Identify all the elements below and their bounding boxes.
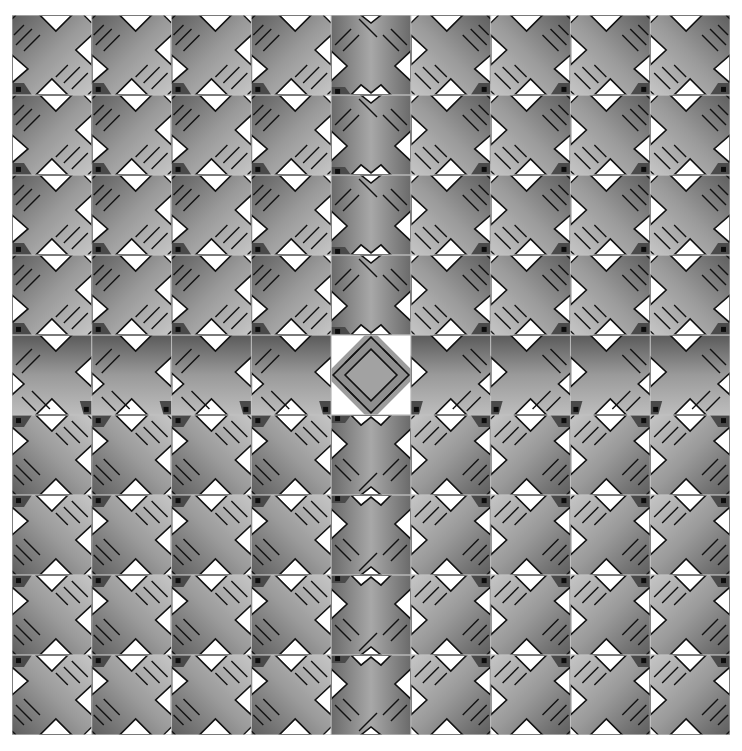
pattern-tile-middle-row: [172, 335, 252, 415]
pattern-tile-bottom-right: [650, 495, 730, 575]
pattern-tile-middle-column: [331, 495, 411, 575]
pattern-tile-bottom-right: [491, 575, 571, 655]
pattern-tile-bottom-left: [92, 415, 172, 495]
pattern-tile-middle-row: [491, 335, 571, 415]
pattern-tile-middle-column: [331, 415, 411, 495]
tile-pattern-artwork: [0, 0, 742, 751]
pattern-tile-middle-row: [12, 335, 92, 415]
pattern-tile-top-left: [12, 15, 92, 95]
pattern-tile-bottom-right: [411, 575, 491, 655]
pattern-tile-middle-row: [650, 335, 730, 415]
pattern-tile-top-left: [92, 15, 172, 95]
pattern-tile-bottom-left: [251, 495, 331, 575]
pattern-tile-middle-row: [251, 335, 331, 415]
pattern-tile-top-left: [172, 15, 252, 95]
pattern-tile-top-right: [491, 95, 571, 175]
pattern-tile-top-left: [251, 95, 331, 175]
pattern-tile-middle-column: [331, 15, 411, 95]
pattern-tile-middle-column: [331, 95, 411, 175]
pattern-tile-top-right: [411, 95, 491, 175]
pattern-tile-middle-column: [331, 175, 411, 255]
pattern-tile-bottom-right: [570, 415, 650, 495]
pattern-tile-center: [331, 335, 411, 415]
pattern-tile-top-left: [251, 255, 331, 335]
pattern-tile-bottom-left: [92, 655, 172, 735]
pattern-tile-bottom-left: [251, 415, 331, 495]
pattern-tile-top-left: [92, 255, 172, 335]
pattern-tile-middle-row: [411, 335, 491, 415]
pattern-tile-middle-row: [92, 335, 172, 415]
pattern-tile-bottom-right: [570, 655, 650, 735]
pattern-tile-bottom-right: [411, 495, 491, 575]
pattern-tile-top-right: [411, 15, 491, 95]
pattern-tile-bottom-right: [491, 495, 571, 575]
pattern-tile-bottom-left: [12, 655, 92, 735]
pattern-tile-bottom-left: [251, 575, 331, 655]
pattern-tile-top-right: [411, 255, 491, 335]
pattern-tile-bottom-right: [650, 415, 730, 495]
pattern-tile-middle-row: [570, 335, 650, 415]
pattern-tile-bottom-left: [92, 575, 172, 655]
pattern-tile-top-left: [172, 255, 252, 335]
pattern-tile-top-right: [491, 15, 571, 95]
pattern-tile-top-right: [650, 175, 730, 255]
pattern-tile-top-right: [570, 15, 650, 95]
pattern-tile-bottom-left: [12, 575, 92, 655]
pattern-tile-bottom-right: [650, 655, 730, 735]
pattern-tile-bottom-left: [92, 495, 172, 575]
pattern-tile-top-right: [570, 95, 650, 175]
pattern-tile-bottom-right: [570, 495, 650, 575]
pattern-tile-top-right: [650, 15, 730, 95]
pattern-tile-top-right: [491, 175, 571, 255]
tile-grid: [12, 15, 730, 735]
pattern-tile-bottom-left: [172, 415, 252, 495]
pattern-tile-top-right: [650, 95, 730, 175]
pattern-tile-bottom-right: [411, 415, 491, 495]
pattern-tile-top-left: [92, 175, 172, 255]
pattern-tile-bottom-right: [570, 575, 650, 655]
pattern-tile-top-left: [172, 95, 252, 175]
pattern-tile-bottom-left: [172, 575, 252, 655]
pattern-tile-bottom-right: [491, 415, 571, 495]
pattern-tile-middle-column: [331, 255, 411, 335]
pattern-tile-top-right: [650, 255, 730, 335]
pattern-tile-top-left: [12, 95, 92, 175]
pattern-tile-bottom-left: [12, 495, 92, 575]
pattern-tile-bottom-left: [172, 495, 252, 575]
pattern-tile-bottom-left: [12, 415, 92, 495]
pattern-tile-top-left: [172, 175, 252, 255]
pattern-tile-bottom-right: [491, 655, 571, 735]
pattern-tile-bottom-right: [411, 655, 491, 735]
pattern-tile-middle-column: [331, 655, 411, 735]
pattern-tile-top-left: [12, 255, 92, 335]
pattern-tile-top-left: [12, 175, 92, 255]
pattern-tile-top-right: [570, 255, 650, 335]
pattern-tile-top-right: [570, 175, 650, 255]
pattern-tile-top-left: [92, 95, 172, 175]
pattern-tile-top-right: [491, 255, 571, 335]
pattern-tile-bottom-right: [650, 575, 730, 655]
pattern-tile-bottom-left: [172, 655, 252, 735]
pattern-tile-top-left: [251, 175, 331, 255]
pattern-tile-bottom-left: [251, 655, 331, 735]
pattern-tile-top-left: [251, 15, 331, 95]
pattern-tile-middle-column: [331, 575, 411, 655]
pattern-tile-top-right: [411, 175, 491, 255]
